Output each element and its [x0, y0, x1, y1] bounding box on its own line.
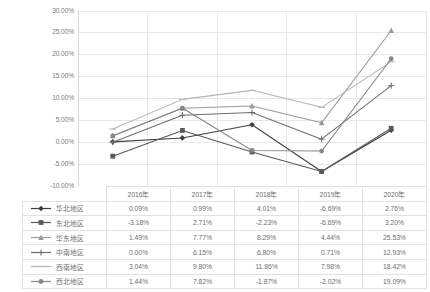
table-cell-value: -2.23% — [235, 216, 299, 231]
table-cell-value: 9.80% — [171, 259, 235, 274]
legend-swatch — [30, 204, 52, 213]
table-header-row: 2016年2017年2018年2019年2020年 — [23, 187, 427, 202]
chart-data-table: 2016年2017年2018年2019年2020年 华北地区0.09%0.99%… — [22, 186, 427, 289]
table-corner-cell — [23, 187, 107, 202]
table-cell-value: 12.93% — [363, 245, 427, 260]
series-marker-diamond — [38, 206, 44, 212]
table-cell-value: 1.44% — [107, 274, 171, 289]
table-cell-value: -3.18% — [107, 216, 171, 231]
legend-series-label: 西南地区 — [56, 262, 84, 272]
legend-swatch — [30, 277, 52, 286]
table-row: 华东地区1.49%7.77%8.29%4.44%25.53% — [23, 230, 427, 245]
table-cell-value: 4.01% — [235, 201, 299, 216]
table-cell-value: 3.20% — [363, 216, 427, 231]
legend-cell: 西北地区 — [23, 274, 107, 289]
legend-swatch — [30, 218, 52, 227]
table-cell-value: -2.02% — [299, 274, 363, 289]
series-marker-square — [39, 221, 44, 226]
series-marker-square — [180, 128, 185, 133]
legend-series-label: 西北地区 — [56, 276, 84, 286]
table-column-header: 2020年 — [363, 187, 427, 202]
table-cell-value: 0.09% — [107, 201, 171, 216]
legend-marker-circle — [30, 277, 52, 286]
table-cell-value: 18.42% — [363, 259, 427, 274]
legend-marker-line — [30, 262, 52, 271]
series-marker-square — [389, 126, 394, 131]
table-cell-value: 3.04% — [107, 259, 171, 274]
legend-series-label: 华东地区 — [56, 233, 84, 243]
table-column-header: 2017年 — [171, 187, 235, 202]
legend-cell: 中南地区 — [23, 245, 107, 260]
series-marker-circle — [39, 279, 44, 284]
table-cell-value: 7.82% — [171, 274, 235, 289]
series-marker-triangle — [388, 28, 394, 33]
table-cell-value: 2.76% — [363, 201, 427, 216]
series-group-西南地区 — [109, 62, 394, 129]
series-group-中南地区 — [110, 83, 394, 146]
chart-page: 30.00%25.00%20.00%15.00%10.00%5.00%0.00%… — [0, 0, 430, 292]
table-cell-value: -1.87% — [235, 274, 299, 289]
table-cell-value: 0.00% — [107, 245, 171, 260]
table-cell-value: 6.15% — [171, 245, 235, 260]
series-marker-diamond — [249, 122, 255, 128]
table-cell-value: 1.49% — [107, 230, 171, 245]
legend-cell: 东北地区 — [23, 216, 107, 231]
table-cell-value: 0.99% — [171, 201, 235, 216]
table-cell-value: -6.69% — [299, 201, 363, 216]
series-marker-circle — [110, 134, 115, 139]
table-column-header: 2018年 — [235, 187, 299, 202]
legend-marker-cross — [30, 248, 52, 257]
legend-swatch — [30, 248, 52, 257]
legend-marker-square — [30, 218, 52, 227]
chart-plot-svg — [0, 0, 430, 186]
table-row: 东北地区-3.18%2.71%-2.23%-6.69%3.20% — [23, 216, 427, 231]
legend-cell: 西南地区 — [23, 259, 107, 274]
series-marker-circle — [389, 56, 394, 61]
table-row: 西北地区1.44%7.82%-1.87%-2.02%19.09% — [23, 274, 427, 289]
table-cell-value: -6.69% — [299, 216, 363, 231]
legend-series-label: 中南地区 — [56, 247, 84, 257]
series-marker-square — [110, 154, 115, 159]
line-chart: 30.00%25.00%20.00%15.00%10.00%5.00%0.00%… — [0, 0, 430, 186]
table-column-header: 2016年 — [107, 187, 171, 202]
legend-swatch — [30, 233, 52, 242]
legend-series-label: 东北地区 — [56, 218, 84, 228]
table-cell-value: 25.53% — [363, 230, 427, 245]
table-cell-value: 19.09% — [363, 274, 427, 289]
legend-series-label: 华北地区 — [56, 203, 84, 213]
legend-swatch — [30, 262, 52, 271]
table-cell-value: 6.80% — [235, 245, 299, 260]
series-marker-circle — [180, 106, 185, 111]
table-cell-value: 0.71% — [299, 245, 363, 260]
series-marker-square — [319, 169, 324, 174]
table-cell-value: 7.77% — [171, 230, 235, 245]
series-group-华东地区 — [110, 28, 394, 139]
table-column-header: 2019年 — [299, 187, 363, 202]
legend-marker-diamond — [30, 204, 52, 213]
table-cell-value: 7.98% — [299, 259, 363, 274]
series-marker-circle — [250, 148, 255, 153]
table-body: 华北地区0.09%0.99%4.01%-6.69%2.76%东北地区-3.18%… — [23, 201, 427, 289]
series-marker-diamond — [180, 135, 186, 141]
table-row: 中南地区0.00%6.15%6.80%0.71%12.93% — [23, 245, 427, 260]
table-row: 华北地区0.09%0.99%4.01%-6.69%2.76% — [23, 201, 427, 216]
table-cell-value: 4.44% — [299, 230, 363, 245]
table-row: 西南地区3.04%9.80%11.86%7.98%18.42% — [23, 259, 427, 274]
table-cell-value: 8.29% — [235, 230, 299, 245]
legend-marker-triangle — [30, 233, 52, 242]
table-cell-value: 11.86% — [235, 259, 299, 274]
legend-cell: 华东地区 — [23, 230, 107, 245]
table-cell-value: 2.71% — [171, 216, 235, 231]
legend-cell: 华北地区 — [23, 201, 107, 216]
series-marker-circle — [319, 149, 324, 154]
